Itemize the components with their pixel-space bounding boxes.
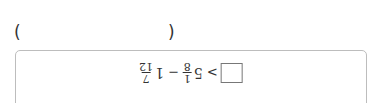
- left-paren: (: [14, 22, 21, 42]
- minus-operator: −: [168, 66, 179, 81]
- term1-whole: 5: [194, 65, 203, 81]
- term2-fraction: 7 12: [139, 62, 153, 85]
- term1-numerator: 1: [183, 73, 192, 85]
- term2-denominator: 12: [139, 62, 153, 73]
- term2-numerator: 7: [142, 73, 151, 85]
- right-paren: ): [168, 22, 175, 42]
- comparator: >: [207, 66, 218, 81]
- math-expression: > 5 1 8 − 1 7 12: [138, 59, 246, 87]
- term1-fraction: 1 8: [183, 62, 192, 85]
- term2-whole: 1: [155, 65, 164, 81]
- term1-denominator: 8: [184, 62, 191, 73]
- answer-input-box[interactable]: [221, 63, 243, 83]
